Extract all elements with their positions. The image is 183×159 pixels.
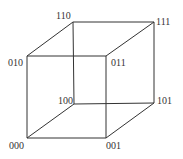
binary-cube-diagram: 000 001 010 011 100 101 110 111	[0, 0, 183, 159]
vertex-label-000: 000	[9, 140, 24, 151]
vertex-label-110: 110	[56, 10, 71, 21]
edge-000-100	[27, 104, 74, 138]
cube-edges	[27, 22, 154, 138]
vertex-label-010: 010	[8, 57, 23, 68]
vertex-label-111: 111	[156, 16, 170, 27]
vertex-label-011: 011	[111, 57, 126, 68]
edge-100-101	[74, 103, 154, 104]
vertex-label-101: 101	[157, 95, 172, 106]
vertex-labels: 000 001 010 011 100 101 110 111	[8, 10, 172, 151]
edge-001-101	[106, 103, 154, 138]
edge-010-110	[27, 22, 73, 56]
vertex-label-100: 100	[58, 95, 73, 106]
edge-011-111	[106, 22, 154, 56]
vertex-label-001: 001	[106, 140, 121, 151]
edge-100-110	[73, 22, 74, 104]
